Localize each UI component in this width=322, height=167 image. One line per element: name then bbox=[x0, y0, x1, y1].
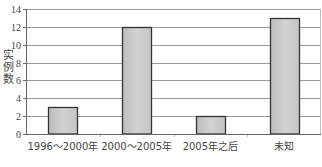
y-tick-label: 4 bbox=[16, 93, 21, 104]
bar bbox=[197, 117, 226, 135]
bar bbox=[49, 108, 78, 135]
x-category-label: 2005年之后 bbox=[183, 140, 238, 152]
y-tick-label: 6 bbox=[16, 75, 21, 86]
y-tick-label: 12 bbox=[11, 22, 21, 33]
bar-chart: 02468101214 1996～2000年2000～2005年2005年之后未… bbox=[0, 0, 322, 167]
y-tick-labels: 02468101214 bbox=[11, 4, 21, 140]
y-tick-label: 0 bbox=[16, 129, 21, 140]
bars bbox=[49, 19, 300, 138]
y-tick-label: 8 bbox=[16, 58, 21, 69]
y-tick-label: 10 bbox=[11, 40, 21, 51]
bar bbox=[123, 28, 152, 135]
y-tick-label: 14 bbox=[11, 4, 21, 15]
x-category-labels: 1996～2000年2000～2005年2005年之后未知 bbox=[27, 140, 294, 152]
x-category-label: 2000～2005年 bbox=[101, 140, 172, 152]
bar bbox=[271, 19, 300, 135]
y-tick-label: 2 bbox=[16, 111, 21, 122]
x-category-label: 未知 bbox=[274, 140, 294, 152]
x-category-label: 1996～2000年 bbox=[27, 140, 98, 152]
